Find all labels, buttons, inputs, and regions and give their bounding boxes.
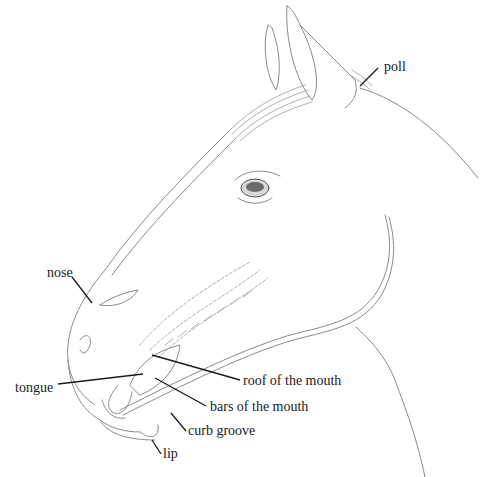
label-roof-of-mouth: roof of the mouth bbox=[243, 374, 341, 388]
nostril bbox=[100, 290, 138, 306]
nose-leader bbox=[72, 277, 92, 303]
label-poll: poll bbox=[384, 60, 406, 74]
horse-head-diagram: poll nose tongue roof of the mouth bars … bbox=[0, 0, 497, 477]
curb-leader bbox=[171, 413, 186, 431]
label-tongue: tongue bbox=[15, 381, 53, 395]
label-bars-of-mouth: bars of the mouth bbox=[210, 400, 308, 414]
lip-leader bbox=[152, 440, 161, 454]
left-ear bbox=[265, 25, 279, 90]
neck-crest bbox=[360, 88, 478, 178]
label-nose: nose bbox=[47, 266, 73, 280]
face-profile bbox=[68, 130, 230, 405]
throat-line bbox=[356, 327, 425, 477]
bars-leader bbox=[155, 378, 206, 406]
label-curb-groove: curb groove bbox=[188, 424, 255, 438]
lower-lip bbox=[140, 425, 158, 437]
label-lip: lip bbox=[163, 447, 178, 461]
